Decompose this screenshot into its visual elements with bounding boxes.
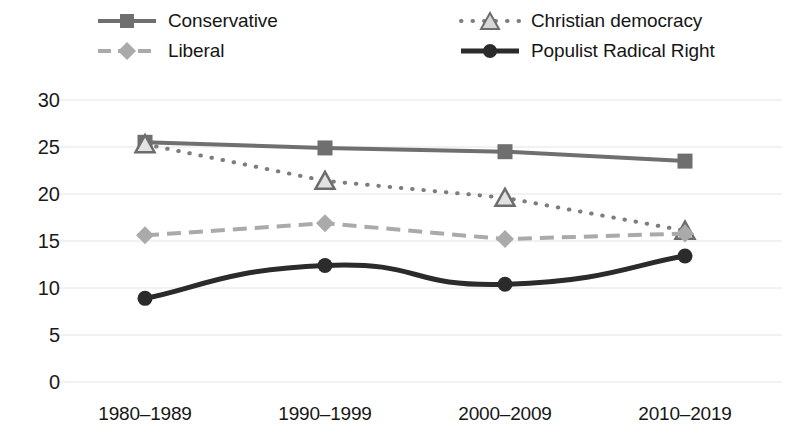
diamond-marker-dashed-line-icon [96, 41, 158, 61]
y-axis-tick-label: 20 [38, 184, 60, 204]
data-point-marker [496, 230, 514, 248]
square-marker-solid-line-icon [96, 11, 158, 31]
y-axis-tick-label: 0 [49, 372, 60, 392]
y-axis-tick-labels: 051015202530 [0, 78, 60, 398]
y-axis-tick-label: 30 [38, 90, 60, 110]
y-axis-tick-label: 10 [38, 278, 60, 298]
series-line [145, 256, 685, 298]
chart-container: Conservative Liberal Christian democracy [0, 0, 787, 435]
legend-item-conservative[interactable]: Conservative [96, 8, 278, 34]
legend-item-christian-democracy[interactable]: Christian democracy [459, 8, 702, 34]
plot-canvas [0, 78, 787, 398]
data-point-marker [498, 144, 513, 159]
y-axis-tick-label: 15 [38, 231, 60, 251]
x-axis-tick-label: 1980–1989 [98, 404, 191, 424]
series-populist-radical-right [138, 249, 693, 306]
series-line [145, 223, 685, 239]
plot-area: 051015202530 [0, 78, 787, 398]
x-axis-tick-label: 2010–2019 [638, 404, 731, 424]
series-conservative [138, 135, 693, 169]
x-axis-tick-label: 1990–1999 [278, 404, 371, 424]
series-line [145, 142, 685, 161]
data-point-marker [316, 214, 334, 232]
x-axis: 1980–19891990–19992000–20092010–2019 [0, 398, 787, 435]
y-axis-tick-label: 25 [38, 137, 60, 157]
legend-label-conservative: Conservative [168, 11, 278, 31]
x-axis-tick-label: 2000–2009 [458, 404, 551, 424]
data-point-marker [318, 258, 333, 273]
x-axis-tick-labels: 1980–19891990–19992000–20092010–2019 [0, 398, 787, 435]
data-point-marker [318, 140, 333, 155]
y-axis-tick-label: 5 [49, 325, 60, 345]
data-point-marker [498, 277, 513, 292]
triangle-marker-dotted-line-icon [459, 11, 521, 31]
legend-label-liberal: Liberal [168, 41, 224, 61]
data-point-marker [678, 249, 693, 264]
legend-label-populist-radical-right: Populist Radical Right [531, 41, 715, 61]
data-point-marker [136, 226, 154, 244]
data-point-marker [138, 291, 153, 306]
chart-legend: Conservative Liberal Christian democracy [0, 6, 787, 68]
legend-label-christian-democracy: Christian democracy [531, 11, 702, 31]
data-point-marker [678, 154, 693, 169]
legend-item-populist-radical-right[interactable]: Populist Radical Right [459, 38, 715, 64]
data-point-marker [316, 172, 335, 189]
series-liberal [136, 214, 694, 248]
legend-item-liberal[interactable]: Liberal [96, 38, 224, 64]
circle-marker-solid-line-icon [459, 41, 521, 61]
data-point-marker [496, 189, 515, 206]
